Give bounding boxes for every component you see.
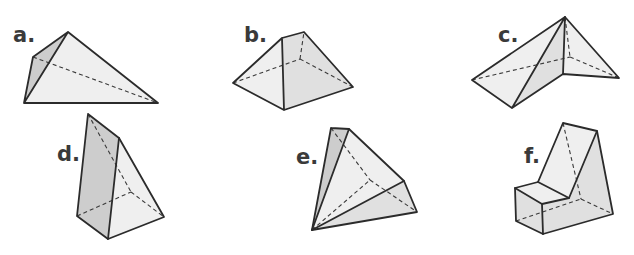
shape-d — [77, 114, 164, 239]
shape-f — [515, 123, 613, 234]
shape-c — [472, 17, 619, 108]
shape-b — [233, 32, 353, 110]
shape-a — [24, 32, 158, 103]
shape-e — [312, 128, 417, 230]
shapes-canvas — [0, 0, 634, 255]
